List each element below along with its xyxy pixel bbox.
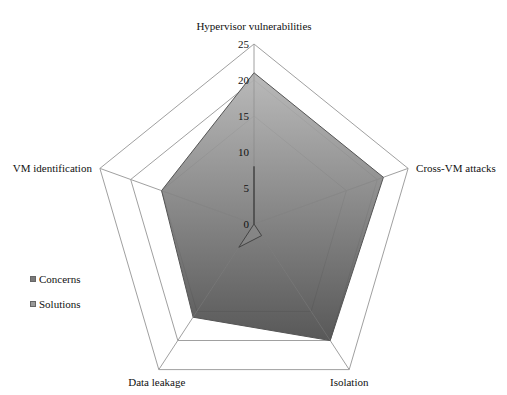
tick-label: 15	[238, 110, 250, 122]
category-label: Cross-VM attacks	[416, 162, 496, 174]
tick-label: 0	[244, 218, 250, 230]
category-label: Data leakage	[128, 376, 185, 388]
legend-swatch-concerns	[30, 276, 36, 282]
legend-item-solutions: Solutions	[30, 297, 81, 311]
legend-swatch-solutions	[30, 301, 36, 307]
tick-label: 5	[244, 182, 250, 194]
radar-chart: 0510152025 Hypervisor vulnerabilitiesCro…	[0, 0, 507, 395]
tick-label: 10	[238, 146, 250, 158]
tick-label: 25	[238, 38, 250, 50]
chart-legend: Concerns Solutions	[30, 272, 81, 322]
radar-series	[162, 73, 384, 341]
legend-label-solutions: Solutions	[39, 298, 81, 310]
category-label: Isolation	[330, 376, 369, 388]
series-concerns-area	[162, 73, 384, 341]
legend-label-concerns: Concerns	[39, 273, 81, 285]
tick-label: 20	[238, 74, 250, 86]
category-label: VM identification	[13, 162, 93, 174]
legend-item-concerns: Concerns	[30, 272, 81, 286]
category-label: Hypervisor vulnerabilities	[196, 20, 311, 32]
